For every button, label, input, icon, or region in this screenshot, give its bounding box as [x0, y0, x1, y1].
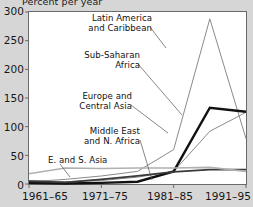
y-tick-50: 50 — [0, 150, 24, 162]
series-label-mena-line2: and N. Africa — [48, 137, 140, 147]
series-label-e-s-asia: E. and S. Asia — [48, 156, 107, 166]
series-label-europe-central-asia: Europe and Central Asia — [42, 92, 132, 112]
y-tick-100: 100 — [0, 121, 24, 133]
series-label-latin-america-line2: and Caribbean — [60, 24, 152, 34]
leader-es-asia — [60, 164, 70, 177]
series-label-middle-east-n-africa: Middle East and N. Africa — [48, 127, 140, 147]
figure-container: Percent per year 300 250 200 150 100 50 … — [0, 0, 253, 207]
series-label-latin-america: Latin America and Caribbean — [60, 14, 152, 34]
x-tick-1961-65: 1961–65 — [22, 190, 68, 202]
x-tick-1971-75: 1971–75 — [82, 190, 128, 202]
y-tick-250: 250 — [0, 34, 24, 46]
series-label-sub-saharan-line2: Africa — [48, 61, 140, 71]
leader-latin-america — [150, 27, 166, 48]
leader-middle-east — [140, 140, 152, 180]
x-tick-1981-85: 1981–85 — [147, 190, 193, 202]
leader-sub-saharan — [138, 64, 182, 115]
y-tick-0: 0 — [0, 179, 24, 191]
y-tick-300: 300 — [0, 5, 24, 17]
series-label-sub-saharan-africa: Sub-Saharan Africa — [48, 51, 140, 71]
series-label-europe-line2: Central Asia — [42, 102, 132, 112]
x-tick-1991-95: 1991–95 — [205, 190, 251, 202]
y-tick-150: 150 — [0, 92, 24, 104]
y-tick-200: 200 — [0, 63, 24, 75]
